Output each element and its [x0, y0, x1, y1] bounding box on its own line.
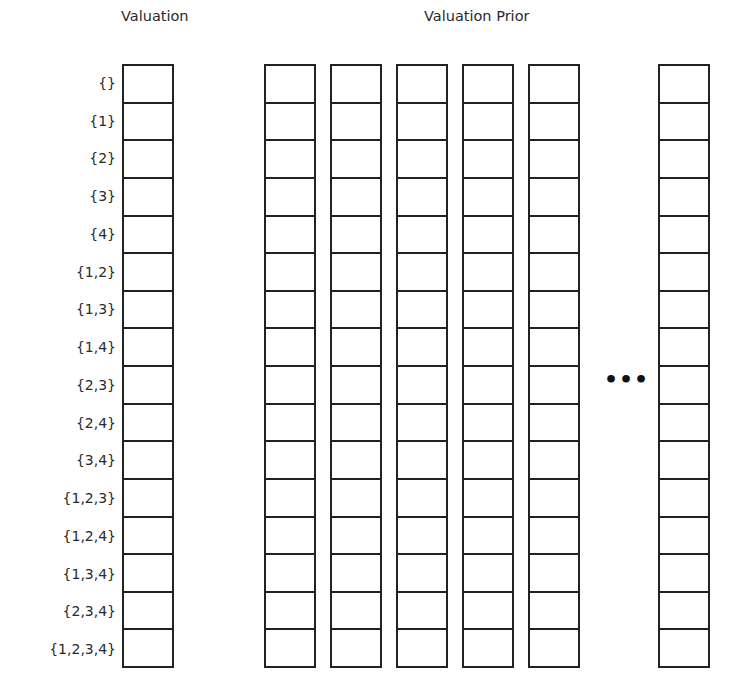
row-label: {1,2} [0, 253, 116, 291]
cell [124, 405, 172, 443]
row-label: {1} [0, 102, 116, 140]
row-label: {4} [0, 215, 116, 253]
cell [660, 555, 708, 593]
cell [266, 217, 314, 255]
cell [124, 104, 172, 142]
cell [332, 405, 380, 443]
cell [266, 179, 314, 217]
cell [266, 141, 314, 179]
cell [464, 405, 512, 443]
cell [124, 593, 172, 631]
cell [464, 630, 512, 666]
cell [266, 442, 314, 480]
cell [266, 292, 314, 330]
cell [398, 179, 446, 217]
cell [530, 367, 578, 405]
cell [660, 518, 708, 556]
cell [530, 480, 578, 518]
cell [398, 518, 446, 556]
row-label: {2,4} [0, 404, 116, 442]
row-labels: {}{1}{2}{3}{4}{1,2}{1,3}{1,4}{2,3}{2,4}{… [0, 64, 116, 668]
cell [530, 292, 578, 330]
cell [660, 141, 708, 179]
cell [266, 630, 314, 666]
cell [266, 66, 314, 104]
cell [530, 555, 578, 593]
cell [530, 329, 578, 367]
cell [660, 593, 708, 631]
prior-column-2 [330, 64, 382, 668]
cell [464, 329, 512, 367]
row-label: {2,3,4} [0, 593, 116, 631]
row-label: {2} [0, 140, 116, 178]
cell [530, 405, 578, 443]
cell [332, 367, 380, 405]
cell [332, 329, 380, 367]
cell [398, 217, 446, 255]
cell [124, 254, 172, 292]
cell [332, 630, 380, 666]
cell [398, 367, 446, 405]
cell [332, 518, 380, 556]
cell [266, 104, 314, 142]
cell [332, 179, 380, 217]
cell [530, 630, 578, 666]
cell [332, 442, 380, 480]
cell [266, 518, 314, 556]
cell [124, 442, 172, 480]
row-label: {1,4} [0, 328, 116, 366]
cell [660, 104, 708, 142]
cell [660, 217, 708, 255]
row-label: {3,4} [0, 442, 116, 480]
cell [124, 480, 172, 518]
cell [464, 518, 512, 556]
cell [530, 104, 578, 142]
cell [398, 555, 446, 593]
row-label: {1,2,3,4} [0, 630, 116, 668]
cell [124, 329, 172, 367]
cell [464, 254, 512, 292]
cell [660, 480, 708, 518]
cell [464, 66, 512, 104]
cell [464, 480, 512, 518]
cell [530, 593, 578, 631]
cell [398, 480, 446, 518]
cell [464, 555, 512, 593]
cell [660, 405, 708, 443]
valuation-title: Valuation [121, 8, 189, 24]
cell [332, 480, 380, 518]
cell [398, 292, 446, 330]
cell [398, 329, 446, 367]
cell [124, 555, 172, 593]
cell [660, 367, 708, 405]
cell [124, 630, 172, 666]
cell [398, 66, 446, 104]
cell [332, 292, 380, 330]
cell [332, 217, 380, 255]
row-label: {1,2,3} [0, 479, 116, 517]
cell [266, 480, 314, 518]
cell [660, 630, 708, 666]
cell [124, 179, 172, 217]
cell [266, 254, 314, 292]
cell [398, 405, 446, 443]
cell [530, 141, 578, 179]
cell [660, 179, 708, 217]
cell [398, 593, 446, 631]
row-label: {2,3} [0, 366, 116, 404]
cell [266, 405, 314, 443]
cell [464, 217, 512, 255]
cell [464, 593, 512, 631]
cell [332, 593, 380, 631]
cell [398, 141, 446, 179]
cell [530, 179, 578, 217]
cell [124, 367, 172, 405]
cell [124, 66, 172, 104]
cell [124, 217, 172, 255]
prior-column-5 [528, 64, 580, 668]
ellipsis-icon: ••• [604, 372, 649, 388]
cell [530, 217, 578, 255]
cell [464, 141, 512, 179]
cell [398, 104, 446, 142]
cell [464, 104, 512, 142]
